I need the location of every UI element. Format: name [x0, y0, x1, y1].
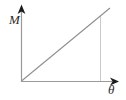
plot-figure: M θ [0, 0, 126, 100]
x-axis-label: θ [108, 83, 114, 96]
y-axis-label: M [9, 13, 20, 26]
data-line [22, 8, 111, 81]
